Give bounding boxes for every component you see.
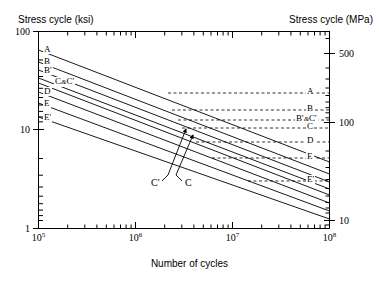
y-left-tick-label-10: 10: [6, 124, 30, 135]
curve-label-right-B: B: [306, 104, 314, 113]
curve-label-left-Cprime-text: C': [66, 76, 74, 86]
x-tick-exponent-1e7: 7: [236, 231, 240, 239]
x-tick-exponent-1e6: 6: [139, 231, 143, 239]
curve-A: [39, 50, 330, 162]
y-right-tick-label-500: 500: [339, 48, 354, 59]
x-tick-label-1e6: 106: [119, 232, 152, 243]
curve-label-right-Bprime-text: B': [296, 113, 304, 123]
curve-label-left-Bprime: B': [43, 66, 53, 75]
y-left-tick-label-100: 100: [6, 26, 30, 37]
curve-label-left-C-and-Cprime: C&C': [54, 77, 75, 87]
axis-lines: [39, 31, 330, 229]
x-tick-label-1e5: 105: [22, 232, 55, 243]
curve-label-left-E: E: [43, 99, 51, 108]
curve-label-right-D: D: [306, 136, 315, 145]
curve-Bprime: [39, 70, 330, 182]
x-ticks: [39, 32, 330, 229]
y-right-tick-label-100: 100: [339, 117, 354, 128]
x-tick-exponent-1e8: 8: [333, 231, 337, 239]
leader-C: [176, 135, 193, 181]
curve-label-right-E: E: [306, 152, 314, 161]
x-tick-mantissa-1e8: 10: [323, 232, 333, 243]
curve-C: [39, 83, 330, 195]
x-tick-label-1e7: 107: [216, 232, 249, 243]
y-right-tick-label-10: 10: [339, 215, 349, 226]
curve-label-left-A: A: [43, 45, 52, 54]
fatigue-sn-chart: Stress cycle (ksi) Stress cycle (MPa) Nu…: [0, 0, 379, 285]
callout-label-C: C: [185, 178, 192, 188]
leader-Cprime: [162, 129, 186, 181]
curve-label-left-Eprime: E': [43, 113, 52, 122]
curve-label-right-C: C: [306, 122, 314, 131]
x-tick-mantissa-1e6: 10: [129, 232, 139, 243]
x-tick-mantissa-1e5: 10: [32, 232, 42, 243]
x-tick-mantissa-1e7: 10: [226, 232, 236, 243]
curve-label-right-A: A: [306, 87, 315, 96]
x-tick-label-1e8: 108: [313, 232, 346, 243]
curve-Eprime: [39, 117, 330, 219]
callout-label-Cprime: C': [151, 178, 159, 188]
curve-D: [39, 92, 330, 203]
curve-label-right-Eprime: E': [306, 175, 315, 184]
x-tick-exponent-1e5: 5: [42, 231, 46, 239]
curve-label-left-D: D: [43, 87, 52, 96]
